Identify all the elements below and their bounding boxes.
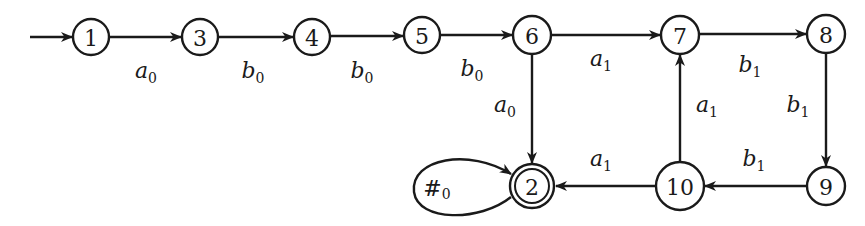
state-5: 5: [404, 17, 440, 53]
state-label: 1: [84, 26, 98, 51]
label-6-7: a1: [590, 46, 612, 74]
label-6-2: a0: [494, 92, 516, 120]
edge-labels: a0 b0 b0 b0 a1 b1 a0 a1 b1 b1 a1 #0: [135, 46, 810, 202]
state-label: 5: [415, 24, 429, 49]
label-8-9: b1: [786, 92, 809, 120]
state-10: 10: [656, 162, 704, 210]
label-5-6: b0: [460, 56, 483, 84]
label-1-3: a0: [135, 58, 157, 86]
state-label: 4: [305, 26, 319, 51]
state-3: 3: [182, 19, 218, 55]
state-label: 3: [193, 26, 207, 51]
label-3-4: b0: [241, 58, 264, 86]
state-label: 8: [819, 23, 833, 48]
state-4: 4: [294, 19, 330, 55]
state-label: 2: [525, 175, 539, 200]
state-1: 1: [73, 19, 109, 55]
state-6: 6: [513, 16, 551, 54]
state-label: 10: [666, 175, 694, 200]
label-self-loop-2: #0: [423, 176, 450, 202]
label-7-8: b1: [738, 52, 761, 80]
label-10-2: a1: [590, 146, 612, 174]
label-10-7: a1: [696, 92, 718, 120]
state-label: 6: [525, 24, 539, 49]
label-9-10: b1: [742, 146, 765, 174]
state-8: 8: [807, 15, 845, 53]
state-9: 9: [807, 167, 845, 205]
automaton-diagram: 1 3 4 5 6 7 8 2: [0, 0, 865, 226]
state-7: 7: [661, 16, 699, 54]
state-2-accepting: 2: [510, 164, 554, 208]
label-4-5: b0: [350, 58, 373, 86]
state-label: 7: [673, 24, 687, 49]
states: 1 3 4 5 6 7 8 2: [73, 15, 845, 210]
state-label: 9: [819, 175, 833, 200]
